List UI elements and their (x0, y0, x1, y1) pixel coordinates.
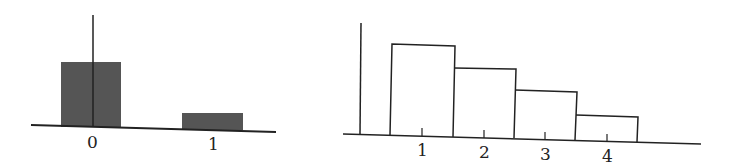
x-axis (343, 134, 701, 144)
tick-label-2: 2 (479, 142, 490, 162)
tick-label-1: 1 (417, 140, 428, 160)
tick-label-3: 3 (540, 144, 551, 164)
tick-label-1: 1 (208, 134, 219, 154)
charts-canvas: 0 1 1 2 3 4 (0, 0, 731, 166)
bar-3 (515, 90, 577, 140)
right-chart: 1 2 3 4 (343, 23, 701, 166)
tick-label-0: 0 (87, 132, 98, 152)
y-axis (360, 23, 361, 134)
bar-2 (454, 68, 516, 138)
bar-1 (390, 44, 455, 137)
left-chart: 0 1 (31, 15, 276, 154)
bar-0 (61, 62, 121, 127)
tick-label-4: 4 (602, 146, 613, 166)
bar-1 (182, 113, 243, 130)
